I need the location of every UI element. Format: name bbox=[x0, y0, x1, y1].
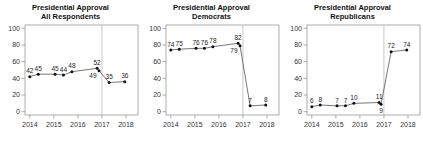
panel-republicans: Presidential Approval Republicans 020406… bbox=[282, 0, 423, 144]
svg-text:2015: 2015 bbox=[46, 121, 62, 128]
svg-text:9: 9 bbox=[379, 107, 383, 114]
svg-text:40: 40 bbox=[12, 75, 20, 82]
svg-text:11: 11 bbox=[376, 93, 383, 100]
chart-title-democrats: Presidential Approval Democrats bbox=[141, 0, 282, 22]
svg-text:48: 48 bbox=[68, 62, 76, 69]
svg-text:72: 72 bbox=[388, 42, 396, 49]
svg-text:80: 80 bbox=[294, 41, 302, 48]
svg-text:2017: 2017 bbox=[376, 121, 392, 128]
svg-text:7: 7 bbox=[344, 97, 348, 104]
svg-text:20: 20 bbox=[294, 91, 302, 98]
svg-text:44: 44 bbox=[60, 66, 68, 73]
svg-text:2015: 2015 bbox=[328, 121, 344, 128]
chart-title-line1: Presidential Approval bbox=[282, 3, 423, 12]
svg-text:40: 40 bbox=[153, 75, 161, 82]
svg-text:60: 60 bbox=[153, 58, 161, 65]
approval-figure: Presidential Approval All Respondents 02… bbox=[0, 0, 423, 144]
svg-text:6: 6 bbox=[310, 97, 314, 104]
svg-text:60: 60 bbox=[12, 58, 20, 65]
svg-text:2017: 2017 bbox=[235, 121, 251, 128]
svg-text:2018: 2018 bbox=[118, 121, 134, 128]
svg-text:2014: 2014 bbox=[163, 121, 179, 128]
chart-title-all-respondents: Presidential Approval All Respondents bbox=[0, 0, 141, 22]
svg-text:78: 78 bbox=[209, 37, 217, 44]
svg-text:2018: 2018 bbox=[259, 121, 275, 128]
svg-text:8: 8 bbox=[264, 96, 268, 103]
chart-plot-republicans: 0204060801002014201520162017201868771011… bbox=[282, 22, 423, 144]
svg-text:45: 45 bbox=[51, 65, 59, 72]
svg-text:100: 100 bbox=[290, 25, 302, 32]
svg-text:2017: 2017 bbox=[94, 121, 110, 128]
panel-all-respondents: Presidential Approval All Respondents 02… bbox=[0, 0, 141, 144]
svg-text:49: 49 bbox=[89, 72, 97, 79]
chart-title-line2: Democrats bbox=[141, 12, 282, 21]
svg-text:2016: 2016 bbox=[211, 121, 227, 128]
svg-text:10: 10 bbox=[350, 94, 358, 101]
panel-democrats: Presidential Approval Democrats 02040608… bbox=[141, 0, 282, 144]
svg-text:74: 74 bbox=[403, 41, 411, 48]
svg-text:76: 76 bbox=[201, 39, 209, 46]
svg-text:80: 80 bbox=[153, 41, 161, 48]
svg-text:8: 8 bbox=[318, 96, 322, 103]
svg-text:2014: 2014 bbox=[304, 121, 320, 128]
svg-text:75: 75 bbox=[176, 40, 184, 47]
svg-text:2014: 2014 bbox=[22, 121, 38, 128]
svg-text:40: 40 bbox=[294, 75, 302, 82]
chart-title-line2: Republicans bbox=[282, 12, 423, 21]
svg-text:2015: 2015 bbox=[187, 121, 203, 128]
svg-text:2018: 2018 bbox=[400, 121, 416, 128]
svg-text:52: 52 bbox=[94, 59, 102, 66]
svg-text:36: 36 bbox=[121, 72, 129, 79]
chart-title-line2: All Respondents bbox=[0, 12, 141, 21]
svg-text:2016: 2016 bbox=[70, 121, 86, 128]
svg-text:35: 35 bbox=[106, 73, 114, 80]
svg-text:2016: 2016 bbox=[352, 121, 368, 128]
svg-text:42: 42 bbox=[26, 67, 34, 74]
svg-text:100: 100 bbox=[8, 25, 20, 32]
chart-title-line1: Presidential Approval bbox=[141, 3, 282, 12]
svg-text:20: 20 bbox=[153, 91, 161, 98]
svg-text:0: 0 bbox=[298, 108, 302, 115]
chart-title-line1: Presidential Approval bbox=[0, 3, 141, 12]
svg-text:7: 7 bbox=[335, 97, 339, 104]
chart-title-republicans: Presidential Approval Republicans bbox=[282, 0, 423, 22]
svg-text:100: 100 bbox=[149, 25, 161, 32]
svg-text:74: 74 bbox=[167, 41, 175, 48]
svg-text:7: 7 bbox=[248, 97, 252, 104]
chart-plot-democrats: 0204060801002014201520162017201874757676… bbox=[141, 22, 282, 144]
svg-text:0: 0 bbox=[16, 108, 20, 115]
svg-text:0: 0 bbox=[157, 108, 161, 115]
svg-text:80: 80 bbox=[12, 41, 20, 48]
svg-text:20: 20 bbox=[12, 91, 20, 98]
svg-text:60: 60 bbox=[294, 58, 302, 65]
svg-text:79: 79 bbox=[230, 47, 238, 54]
svg-text:76: 76 bbox=[192, 39, 200, 46]
svg-text:45: 45 bbox=[35, 65, 43, 72]
svg-text:82: 82 bbox=[235, 34, 243, 41]
chart-plot-all-respondents: 0204060801002014201520162017201842454544… bbox=[0, 22, 141, 144]
